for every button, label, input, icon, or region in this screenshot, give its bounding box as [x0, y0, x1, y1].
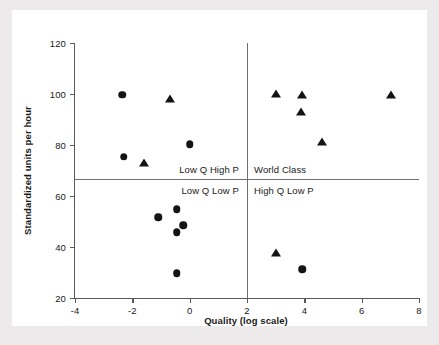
y-axis-tick	[70, 196, 75, 197]
y-axis-tick	[70, 247, 75, 248]
data-point-circle	[173, 269, 181, 277]
data-point-circle	[298, 265, 306, 273]
x-axis-tick-label: -2	[128, 305, 137, 316]
x-axis-tick	[304, 298, 305, 303]
data-point-triangle	[139, 159, 149, 167]
y-axis-tick-label: 80	[35, 140, 66, 151]
quadrant-label: Low Q Low P	[75, 184, 239, 195]
y-axis-tick-label: 20	[35, 293, 66, 304]
x-axis-tick-label: 6	[359, 305, 364, 316]
x-axis-tick	[132, 298, 133, 303]
data-point-triangle	[271, 248, 281, 256]
x-axis-title: Quality (log scale)	[74, 315, 418, 326]
y-axis-tick-label: 40	[35, 242, 66, 253]
x-axis-tick-label: 2	[244, 305, 249, 316]
quadrant-label: Low Q High P	[75, 164, 239, 175]
y-axis-title: Standardized units per hour	[20, 43, 34, 298]
x-axis-tick	[75, 298, 76, 303]
quadrant-divider-horizontal	[75, 179, 419, 180]
quadrant-label: World Class	[254, 164, 306, 175]
y-axis-title-text: Standardized units per hour	[22, 106, 33, 235]
x-axis-tick-label: -4	[71, 305, 80, 316]
data-point-triangle	[165, 94, 175, 102]
x-axis-tick-label: 4	[302, 305, 307, 316]
y-axis-tick	[70, 94, 75, 95]
data-point-circle	[186, 140, 194, 148]
x-axis-tick	[190, 298, 191, 303]
data-point-circle	[173, 206, 181, 214]
quadrant-divider-vertical	[247, 43, 248, 298]
data-point-circle	[173, 229, 181, 237]
x-axis-tick-label: 0	[187, 305, 192, 316]
figure-frame: Standardized units per hour Quality (log…	[0, 0, 439, 345]
data-point-triangle	[386, 90, 396, 98]
y-axis-tick-label: 60	[35, 191, 66, 202]
y-axis-tick-label: 100	[35, 89, 66, 100]
data-point-circle	[154, 214, 162, 222]
quadrant-label: High Q Low P	[254, 184, 314, 195]
x-axis-tick	[247, 298, 248, 303]
y-axis-tick	[70, 43, 75, 44]
y-axis-tick-label: 120	[35, 38, 66, 49]
data-point-triangle	[296, 107, 306, 115]
plot-area: 20406080100120-4-202468Low Q High PWorld…	[74, 43, 419, 299]
data-point-triangle	[271, 90, 281, 98]
chart-canvas: Standardized units per hour Quality (log…	[12, 10, 427, 326]
x-axis-tick	[419, 298, 420, 303]
data-point-circle	[119, 91, 127, 99]
data-point-triangle	[297, 90, 307, 98]
data-point-circle	[120, 153, 128, 161]
x-axis-tick-label: 8	[416, 305, 421, 316]
data-point-circle	[179, 221, 187, 229]
y-axis-tick	[70, 145, 75, 146]
data-point-triangle	[317, 138, 327, 146]
x-axis-tick	[362, 298, 363, 303]
